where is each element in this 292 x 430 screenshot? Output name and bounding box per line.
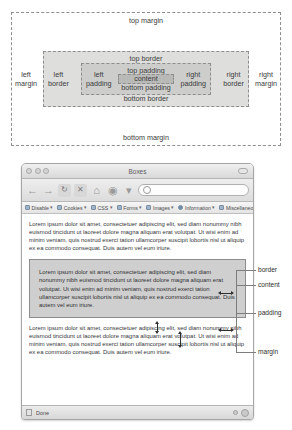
close-button[interactable] (26, 168, 32, 174)
web-developer-toolbar: Disable ▾ Cookies ▾ CSS ▾ Forms ▾ Images… (22, 202, 253, 214)
devtool-css-label: CSS (98, 205, 109, 211)
resize-grip-icon (241, 409, 249, 417)
devtool-cookies[interactable]: Cookies ▾ (57, 205, 87, 211)
margin-arrow-head-right (231, 328, 234, 332)
forward-icon[interactable]: → (42, 184, 55, 197)
browser-toolbar: ← → ↻ ✕ ⌂ ◉ ▾ (22, 179, 253, 202)
padding-arrow-head-left (218, 291, 221, 295)
zoom-button[interactable] (43, 168, 49, 174)
callout-leader-border (236, 270, 256, 271)
devtool-information[interactable]: Information ▾ (178, 205, 215, 211)
content-label: content (134, 75, 158, 82)
devtool-information-label: Information (185, 205, 211, 211)
minimize-button[interactable] (35, 168, 41, 174)
browser-titlebar: Boxes (22, 164, 253, 179)
paragraph-bottom: Lorem ipsum dolor sit amet, consectetuer… (29, 324, 246, 356)
status-indicator-icon (233, 410, 238, 415)
window-title: Boxes (22, 168, 253, 175)
paragraph-top: Lorem ipsum dolor sit amet, consectetuer… (29, 220, 246, 252)
forms-icon (117, 205, 122, 210)
chevron-down-icon: ▾ (171, 205, 174, 210)
chevron-down-icon: ▾ (212, 205, 215, 210)
status-text: Done (36, 410, 49, 416)
devtool-miscellaneous[interactable]: Miscellaneous ▾ (219, 205, 253, 211)
devtool-images[interactable]: Images ▾ (146, 205, 174, 211)
bottom-margin-label: bottom margin (12, 134, 280, 145)
callout-label-padding: padding (258, 309, 281, 316)
css-icon (91, 205, 96, 210)
right-padding-label: right padding (180, 70, 206, 88)
border-middle-row: left border right border top padding lef… (44, 63, 248, 96)
chevron-down-icon: ▾ (50, 205, 53, 210)
toolbar-toggle-button[interactable] (238, 168, 248, 174)
callout-leader-padding (236, 313, 256, 314)
bottom-border-label: bottom border (44, 95, 248, 106)
devtool-images-label: Images (153, 205, 170, 211)
margin-box: top margin left margin right margin top … (11, 12, 281, 146)
top-border-label: top border (44, 52, 248, 63)
callout-label-content: content (258, 281, 280, 288)
devtool-cookies-label: Cookies (64, 205, 83, 211)
padding-middle-row: left padding right padding content (82, 74, 210, 83)
left-margin-label: left margin (15, 70, 37, 88)
callout-bracket (236, 270, 237, 352)
top-margin-label: top margin (12, 13, 280, 24)
back-icon[interactable]: ← (26, 184, 39, 197)
images-icon (146, 205, 151, 210)
bookmarks-icon[interactable]: ◉ (106, 184, 119, 197)
reload-icon[interactable]: ↻ (58, 184, 71, 197)
chevron-down-icon[interactable]: ▾ (122, 184, 135, 197)
chevron-down-icon: ▾ (110, 205, 113, 210)
paragraph-boxed: Lorem ipsum dolor sit amet, consectetuer… (39, 268, 236, 308)
margin-bottom-arrow-head-up (178, 331, 182, 334)
content-top-arrow-head (155, 321, 159, 324)
padding-box: top padding left padding right padding (81, 63, 211, 96)
page-content: Lorem ipsum dolor sit amet, consectetuer… (22, 214, 253, 410)
callout-leader-margin (236, 352, 256, 353)
callout-leader-content (236, 285, 256, 286)
box-model-diagram: top margin left margin right margin top … (11, 12, 281, 146)
left-border-label: left border (48, 70, 69, 88)
disable-icon (25, 205, 30, 210)
chevron-down-icon: ▾ (84, 205, 87, 210)
devtool-css[interactable]: CSS ▾ (91, 205, 113, 211)
callout-label-border: border (258, 266, 277, 273)
content-box: content (118, 74, 174, 83)
devtool-forms[interactable]: Forms ▾ (117, 205, 143, 211)
callout-label-margin: margin (258, 348, 278, 355)
highlighted-box: Lorem ipsum dolor sit amet, consectetuer… (29, 259, 246, 317)
stop-icon[interactable]: ✕ (74, 184, 87, 197)
devtool-miscellaneous-label: Miscellaneous (226, 205, 253, 211)
home-icon[interactable]: ⌂ (90, 184, 103, 197)
right-margin-label: right margin (255, 70, 277, 88)
left-padding-label: left padding (86, 70, 112, 88)
information-icon (178, 205, 183, 210)
chevron-down-icon: ▾ (139, 205, 142, 210)
devtool-forms-label: Forms (123, 205, 138, 211)
devtool-disable-label: Disable (32, 205, 49, 211)
padding-arrow-head-right (231, 291, 234, 295)
border-box: top border left border right border top … (43, 51, 249, 107)
browser-statusbar: Done (22, 405, 253, 419)
go-icon[interactable] (143, 186, 151, 194)
margin-middle-row: left margin right margin top border left… (12, 24, 280, 135)
statusbar-right-group (233, 409, 249, 417)
devtool-disable[interactable]: Disable ▾ (25, 205, 53, 211)
content-bottom-arrow-head (155, 331, 159, 334)
address-bar[interactable] (138, 184, 249, 196)
margin-arrow-head-left (218, 328, 221, 332)
miscellaneous-icon (219, 205, 224, 210)
window-controls[interactable] (22, 168, 49, 174)
margin-bottom-arrow-head (178, 345, 182, 348)
lock-icon (26, 409, 32, 416)
cookies-icon (57, 205, 62, 210)
right-border-label: right border (223, 70, 244, 88)
